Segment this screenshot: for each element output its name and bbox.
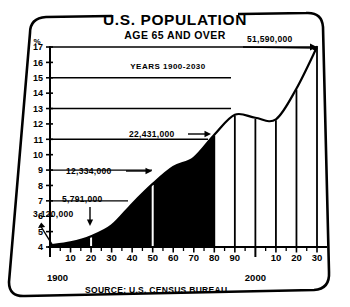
x-tick-label: 20 xyxy=(291,252,302,263)
source-note: SOURCE: U.S. CENSUS BUREAU xyxy=(85,285,227,295)
y-tick-label: 16 xyxy=(33,58,43,68)
annotation-arrowhead-1900 xyxy=(38,222,45,228)
y-tick-label: 10 xyxy=(33,150,43,160)
x-tick-label: 10 xyxy=(65,252,76,263)
x-tick-label: 30 xyxy=(312,252,323,263)
y-tick-label: 9 xyxy=(38,165,43,175)
years-range-note: YEARS 1900-2030 xyxy=(130,62,206,71)
x-tick-label: 60 xyxy=(168,252,179,263)
annotation-label-1900: 3,120,000 xyxy=(33,209,74,219)
y-tick-label: 11 xyxy=(33,135,43,145)
annotation-label-1975: 22,431,000 xyxy=(129,129,175,139)
y-tick-label: 17 xyxy=(33,42,43,52)
annotation-arrowhead-1920 xyxy=(87,220,93,226)
annotation-label-1920: 5,791,000 xyxy=(62,194,103,204)
x-tick-label: 50 xyxy=(147,252,158,263)
chart-figure: U.S. POPULATIONAGE 65 AND OVER%YEARS 190… xyxy=(0,0,350,307)
x-tick-label: 70 xyxy=(188,252,199,263)
annotation-arrowhead-1950 xyxy=(146,168,153,174)
chart-title: U.S. POPULATION xyxy=(103,11,247,28)
y-tick-label: 4 xyxy=(38,242,43,252)
chart-subtitle: AGE 65 AND OVER xyxy=(124,29,225,41)
y-tick-label: 13 xyxy=(33,104,43,114)
x-tick-label: 20 xyxy=(86,252,97,263)
y-tick-label: 8 xyxy=(38,181,43,191)
y-tick-label: 7 xyxy=(38,196,43,206)
annotation-arrowhead-1975 xyxy=(205,131,212,137)
x-tick-label: 90 xyxy=(230,252,241,263)
y-tick-label: 15 xyxy=(33,73,43,83)
x-tick-label: 80 xyxy=(209,252,220,263)
x-tick-label: 10 xyxy=(271,252,282,263)
y-tick-label: 14 xyxy=(33,88,43,98)
annotation-label-1950: 12,334,000 xyxy=(66,166,112,176)
annotation-leader-2030 xyxy=(243,47,315,48)
population-area-chart: U.S. POPULATIONAGE 65 AND OVER%YEARS 190… xyxy=(0,0,350,307)
x-tick-label: 40 xyxy=(127,252,138,263)
x-axis-origin-label: 1900 xyxy=(47,272,68,283)
annotation-label-2030: 51,590,000 xyxy=(247,34,293,44)
x-tick-label: 30 xyxy=(106,252,117,263)
y-tick-label: 12 xyxy=(33,119,43,129)
x-axis-century-label: 2000 xyxy=(245,272,266,283)
